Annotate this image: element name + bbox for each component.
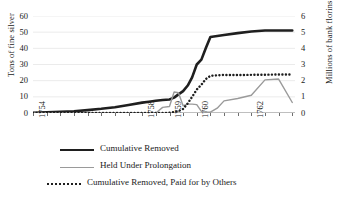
x-tick-mark: [74, 113, 75, 116]
x-tick-mark: [170, 113, 171, 116]
y-tick-label-right: 3: [301, 59, 317, 69]
x-tick-mark: [279, 113, 280, 116]
y-tick-label-right: 0: [301, 108, 317, 118]
y-tick-label-left: 40: [12, 43, 28, 53]
x-tick-mark: [265, 113, 266, 116]
y-tick-label-left: 20: [12, 75, 28, 85]
y-tick-label-left: 60: [12, 11, 28, 21]
legend-item-cumulative-removed: Cumulative Removed: [60, 143, 179, 153]
legend-item-cumulative-removed-paid-by-others: Cumulative Removed, Paid for by Others: [47, 177, 236, 187]
y-tick-label-right: 1: [301, 91, 317, 101]
x-tick-mark: [129, 113, 130, 116]
y-tick-label-left: 10: [12, 91, 28, 101]
chart-figure: Tons of fine silver Millions of bank flo…: [0, 0, 337, 199]
series-line-0: [33, 31, 292, 113]
x-tick-mark: [183, 113, 184, 116]
legend-swatch-dotted: [47, 183, 81, 185]
y-tick-label-right: 5: [301, 27, 317, 37]
x-tick-mark: [197, 113, 198, 116]
x-tick-mark: [60, 113, 61, 116]
y-axis-label-right: Millions of bank florins: [324, 10, 334, 84]
y-tick-label-left: 0: [12, 108, 28, 118]
legend-swatch-solid-black: [60, 149, 94, 151]
x-tick-mark: [88, 113, 89, 116]
x-tick-mark: [142, 113, 143, 116]
legend-item-held-under-prolongation: Held Under Prolongation: [60, 160, 191, 170]
y-tick-label-left: 50: [12, 27, 28, 37]
x-tick-mark: [224, 113, 225, 116]
x-tick-mark: [292, 113, 293, 116]
legend-swatch-solid-gray: [60, 167, 94, 168]
y-tick-label-left: 30: [12, 59, 28, 69]
x-tick-mark: [238, 113, 239, 116]
y-tick-label-right: 6: [301, 11, 317, 21]
legend-label: Cumulative Removed: [100, 143, 179, 153]
plot-svg: [33, 16, 295, 113]
plot-area: [33, 16, 295, 113]
x-tick-mark: [101, 113, 102, 116]
legend-label: Cumulative Removed, Paid for by Others: [87, 177, 236, 187]
y-tick-label-right: 2: [301, 75, 317, 85]
y-tick-label-right: 4: [301, 43, 317, 53]
series-line-1: [33, 79, 292, 113]
x-tick-mark: [251, 113, 252, 116]
x-tick-mark: [33, 113, 34, 116]
x-tick-mark: [115, 113, 116, 116]
x-tick-mark: [210, 113, 211, 116]
legend-label: Held Under Prolongation: [100, 160, 191, 170]
